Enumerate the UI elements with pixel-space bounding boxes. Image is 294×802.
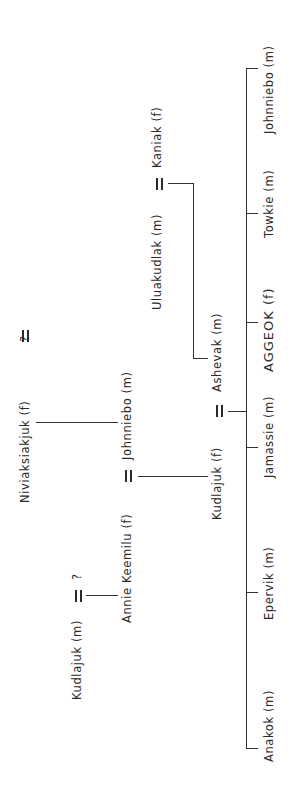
marriage-symbol (156, 178, 158, 190)
child-johnniebo: Johnniebo (m) (262, 45, 276, 134)
child-aggeok: AGGEOK (f) (261, 287, 276, 372)
marriage-symbol (80, 590, 82, 602)
marriage-symbol (130, 470, 132, 482)
person-kaniak: Kaniak (f) (150, 107, 164, 168)
person-niviaksiakjuk-spouse: ? (18, 335, 32, 342)
genealogy-diagram: Niviaksiakjuk (f) ? Kudlajuk (m) ? Annie… (0, 0, 294, 802)
descent-line (138, 476, 208, 477)
person-niviaksiakjuk: Niviaksiakjuk (f) (18, 401, 32, 503)
descent-line (36, 422, 118, 423)
descent-line (168, 183, 193, 184)
person-ashevak: Ashevak (m) (210, 313, 224, 392)
person-uluakudlak: Uluakudlak (m) (150, 214, 164, 310)
child-towkie: Towkie (m) (262, 170, 276, 238)
descent-line (193, 358, 208, 359)
child-tick (246, 748, 258, 749)
person-kudlajuk-m: Kudlajuk (m) (70, 620, 84, 700)
person-annie-keemilu: Annie Keemilu (f) (120, 514, 134, 623)
descent-line (193, 183, 194, 358)
descent-line (228, 411, 246, 412)
child-epervik: Epervik (m) (262, 547, 276, 620)
person-kudlajuk-m-spouse: ? (70, 573, 84, 580)
marriage-symbol (125, 470, 127, 482)
marriage-symbol (75, 590, 77, 602)
marriage-symbol (221, 405, 223, 417)
child-tick (246, 68, 258, 69)
child-tick (246, 447, 258, 448)
marriage-symbol (161, 178, 163, 190)
child-tick (246, 322, 258, 323)
child-tick (246, 213, 258, 214)
child-anakok: Anakok (m) (262, 690, 276, 762)
sibling-line (246, 68, 247, 748)
child-jamassie: Jamassie (m) (262, 396, 276, 478)
marriage-symbol (216, 405, 218, 417)
person-johnniebo-parent: Johnniebo (m) (120, 371, 134, 460)
person-kudlajuk-f: Kudlajuk (f) (210, 447, 224, 520)
child-tick (246, 592, 258, 593)
descent-line (86, 595, 118, 596)
